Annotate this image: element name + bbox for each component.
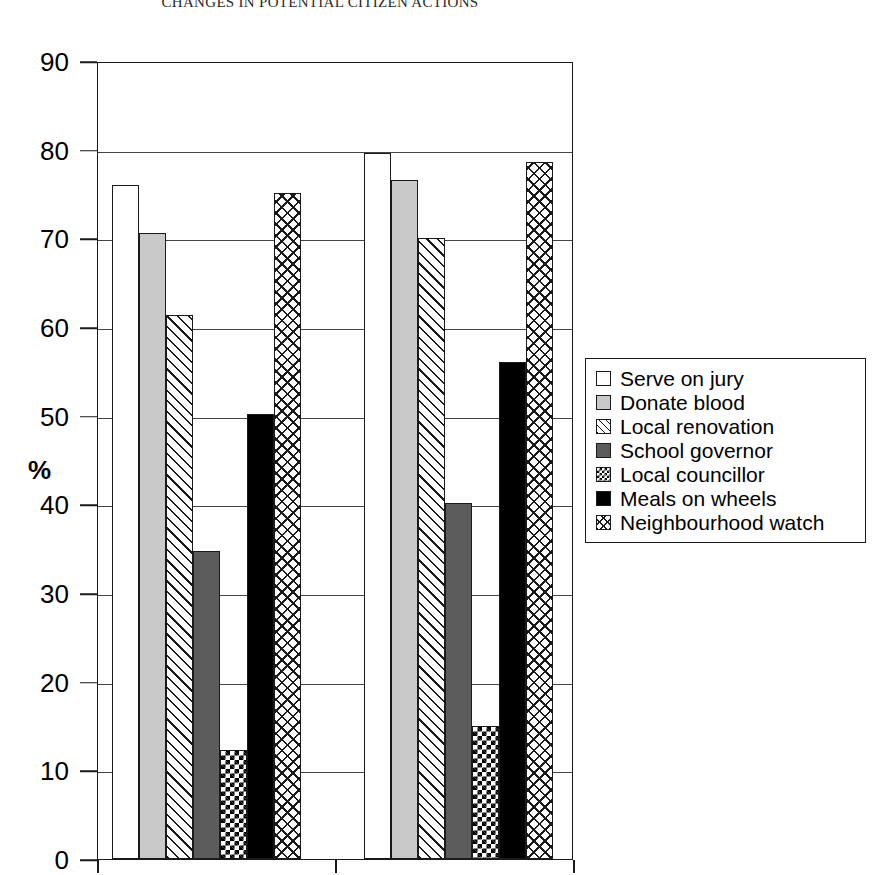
- bar: [247, 414, 274, 859]
- bar: [220, 750, 247, 859]
- legend-item[interactable]: School governor: [596, 438, 859, 462]
- y-tick-mark: [80, 239, 97, 241]
- legend-swatch-icon: [596, 443, 611, 458]
- y-tick-label: 80: [40, 138, 69, 164]
- bar: [418, 238, 445, 859]
- bar: [274, 193, 301, 859]
- y-tick-label: 10: [40, 758, 69, 784]
- y-tick-mark: [80, 682, 97, 684]
- y-tick-mark: [80, 505, 97, 507]
- y-tick-mark: [80, 593, 97, 595]
- y-tick-mark: [80, 150, 97, 152]
- y-tick-mark: [80, 327, 97, 329]
- y-tick-mark: [80, 859, 97, 861]
- bar: [391, 180, 418, 859]
- legend-swatch-icon: [596, 467, 611, 482]
- bar: [193, 551, 220, 859]
- legend-item-label: Local renovation: [620, 416, 774, 437]
- bar: [526, 162, 553, 859]
- y-tick-label: 40: [40, 492, 69, 518]
- gridline: [98, 152, 572, 153]
- legend-swatch-icon: [596, 515, 611, 530]
- x-axis-group-tick: [335, 860, 337, 873]
- legend-item-label: Meals on wheels: [620, 488, 776, 509]
- legend-item-label: School governor: [620, 440, 773, 461]
- legend-item-label: Neighbourhood watch: [620, 512, 824, 533]
- legend-item-label: Serve on jury: [620, 368, 744, 389]
- legend-swatch-icon: [596, 371, 611, 386]
- bar: [112, 185, 139, 859]
- y-tick-label: 60: [40, 315, 69, 341]
- y-tick-label: 50: [40, 404, 69, 430]
- y-tick-mark: [80, 61, 97, 63]
- bar: [139, 233, 166, 859]
- bar: [472, 726, 499, 859]
- legend-item[interactable]: Local renovation: [596, 414, 859, 438]
- chart-legend: Serve on juryDonate bloodLocal renovatio…: [585, 358, 866, 543]
- legend-swatch-icon: [596, 395, 611, 410]
- y-tick-label: 30: [40, 581, 69, 607]
- bar: [364, 153, 391, 859]
- legend-item-label: Local councillor: [620, 464, 765, 485]
- legend-item[interactable]: Neighbourhood watch: [596, 510, 859, 534]
- legend-item[interactable]: Meals on wheels: [596, 486, 859, 510]
- y-axis-title: %: [28, 455, 51, 486]
- y-tick-label: 70: [40, 226, 69, 252]
- bar: [166, 315, 193, 859]
- legend-item[interactable]: Serve on jury: [596, 366, 859, 390]
- legend-item-label: Donate blood: [620, 392, 745, 413]
- legend-swatch-icon: [596, 491, 611, 506]
- bar: [499, 362, 526, 859]
- gridline: [98, 240, 572, 241]
- x-axis-group-tick: [573, 860, 575, 873]
- y-tick-label: 90: [40, 49, 69, 75]
- y-tick-mark: [80, 771, 97, 773]
- y-axis: 0102030405060708090: [0, 0, 97, 872]
- plot-area: [97, 62, 573, 860]
- legend-item[interactable]: Donate blood: [596, 390, 859, 414]
- bar: [445, 503, 472, 859]
- y-tick-label: 20: [40, 670, 69, 696]
- legend-item[interactable]: Local councillor: [596, 462, 859, 486]
- legend-swatch-icon: [596, 419, 611, 434]
- y-tick-label: 0: [55, 847, 69, 873]
- x-axis-group-tick: [97, 860, 99, 873]
- y-tick-mark: [80, 416, 97, 418]
